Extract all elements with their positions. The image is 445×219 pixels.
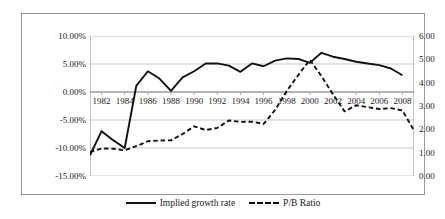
y-axis-label-right: 0.00 (419, 172, 435, 181)
y-axis-label-left: 0.00% (63, 88, 86, 97)
y-axis-label-right: 1.00 (419, 148, 435, 157)
y-axis-label-right: 2.00 (419, 125, 435, 134)
x-axis-label: 2004 (347, 97, 365, 106)
x-axis-label: 2008 (393, 97, 411, 106)
legend-item: P/B Ratio (249, 198, 320, 208)
legend-swatch-solid-icon (126, 202, 156, 204)
x-axis-label: 1996 (255, 97, 273, 106)
y-axis-label-right: 4.00 (419, 78, 435, 87)
y-axis-label-right: 6.00 (419, 32, 435, 41)
legend-swatch-dashed-icon (249, 202, 279, 204)
y-axis-label-left: 5.00% (63, 60, 86, 69)
x-axis-label: 1986 (139, 97, 157, 106)
legend-item: Implied growth rate (126, 198, 235, 208)
x-axis-label: 1994 (231, 97, 249, 106)
x-axis-label: 1984 (116, 97, 134, 106)
x-axis-label: 1992 (208, 97, 226, 106)
plot-area: 10.00%5.00%0.00%-5.00%-10.00%-15.00%6.00… (90, 36, 414, 176)
y-axis-label-left: -15.00% (55, 172, 86, 181)
x-axis-label: 1990 (185, 97, 203, 106)
x-axis-label: 1982 (93, 97, 111, 106)
x-axis-label: 2006 (370, 97, 388, 106)
y-axis-label-left: 10.00% (58, 32, 86, 41)
legend-label: P/B Ratio (283, 198, 320, 208)
plot-canvas (90, 36, 414, 176)
y-axis-label-right: 3.00 (419, 102, 435, 111)
chart-frame: 10.00%5.00%0.00%-5.00%-10.00%-15.00%6.00… (21, 13, 425, 195)
x-axis-label: 1988 (162, 97, 180, 106)
x-axis-label: 2000 (301, 97, 319, 106)
legend-label: Implied growth rate (160, 198, 235, 208)
chart-legend: Implied growth rateP/B Ratio (22, 198, 424, 208)
x-axis-label: 1998 (278, 97, 296, 106)
y-axis-label-left: -5.00% (60, 116, 86, 125)
x-axis-label: 2002 (324, 97, 342, 106)
y-axis-label-left: -10.00% (55, 144, 86, 153)
y-axis-label-right: 5.00 (419, 55, 435, 64)
chart-figure: 10.00%5.00%0.00%-5.00%-10.00%-15.00%6.00… (0, 0, 445, 219)
